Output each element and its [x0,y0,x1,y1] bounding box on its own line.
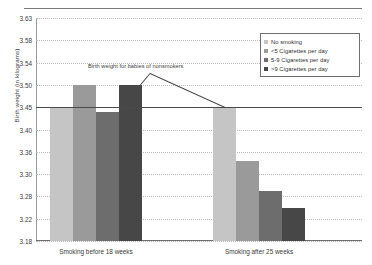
legend-item[interactable]: 5-9 Cigarettes per day [264,55,354,64]
y-axis-tick-label: 3.45 [20,104,32,111]
legend-swatch-icon [264,58,268,62]
legend: No smoking<5 Cigarettes per day5-9 Cigar… [260,33,360,77]
legend-item-label: >9 Cigarettes per day [271,66,328,72]
x-axis-group-label: Smoking after 25 weeks [225,248,293,255]
y-axis-tick-label: 3.30 [20,171,32,178]
legend-swatch-icon [264,49,268,53]
y-axis-title: Birth weight (in kilograms) [13,16,20,156]
gridline [36,241,362,242]
y-axis-tick-label: 3.22 [20,215,32,222]
legend-swatch-icon [264,40,268,44]
bar [236,161,259,241]
bar [119,85,142,241]
bar [73,85,96,241]
y-axis-tick-label: 3.18 [20,238,32,245]
legend-swatch-icon [264,67,268,71]
bar-chart: Birth weight (in kilograms) 3.633.583.54… [0,0,372,265]
legend-item[interactable]: No smoking [264,37,354,46]
y-axis-tick-label: 3.54 [20,59,32,66]
gridline [36,18,362,19]
legend-item[interactable]: >9 Cigarettes per day [264,64,354,73]
y-axis-tick-label: 3.28 [20,193,32,200]
y-axis-tick-label: 3.58 [20,37,32,44]
top-divider [24,8,362,9]
legend-item-label: 5-9 Cigarettes per day [271,57,329,63]
legend-item-label: No smoking [271,39,302,45]
reference-line [36,107,362,108]
reference-line-annotation: Birth weight for babies of nonsmokers [88,63,183,69]
bar [259,191,282,241]
y-axis-tick-label: 3.36 [20,148,32,155]
x-axis-group-label: Smoking before 18 weeks [59,248,133,255]
bar [282,208,305,241]
legend-item-label: <5 Cigarettes per day [271,48,328,54]
legend-item[interactable]: <5 Cigarettes per day [264,46,354,55]
bar [213,107,236,241]
bar [50,107,73,241]
y-axis-tick-label: 3.50 [20,81,32,88]
bar [96,112,119,241]
y-axis-tick-label: 3.40 [20,126,32,133]
y-axis-tick-label: 3.63 [20,15,32,22]
